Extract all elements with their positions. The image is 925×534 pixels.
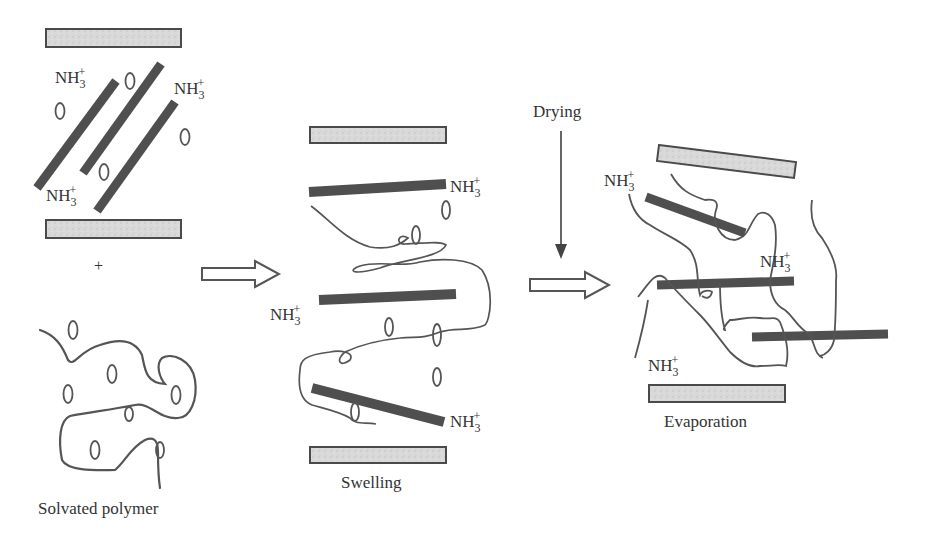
clay-layer — [657, 145, 796, 178]
label-base: NH — [760, 252, 785, 271]
solvent-molecule — [172, 386, 181, 404]
ammonium-label: NH3+ — [760, 253, 797, 270]
plus-sign: + — [94, 258, 103, 274]
process-arrow-1 — [202, 261, 279, 287]
solvent-molecule — [351, 403, 359, 421]
solvent-molecule — [412, 226, 420, 244]
solvent-molecule — [64, 385, 73, 403]
polymer-chain — [40, 330, 196, 488]
solvent-molecule — [91, 441, 100, 459]
clay-layer — [46, 29, 181, 47]
ammonium-label: NH3+ — [46, 187, 83, 204]
label-base: NH — [450, 412, 475, 431]
label-base: NH — [648, 356, 673, 375]
label-subscript: 3 — [475, 421, 481, 435]
surfactant-bar — [97, 102, 175, 211]
ammonium-label: NH3+ — [648, 357, 685, 374]
surfactant-bar — [312, 388, 444, 422]
label-superscript: + — [294, 302, 301, 316]
drying-label: Drying — [533, 103, 581, 120]
polymer-chain — [635, 300, 648, 358]
surfactant-bar — [83, 64, 161, 173]
surfactant-bar — [752, 334, 888, 337]
label-subscript: 3 — [80, 77, 86, 91]
caption-solvated-polymer: Solvated polymer — [38, 500, 158, 517]
solvent-molecule — [385, 318, 393, 336]
stage-1-solvated-polymer — [40, 321, 196, 488]
label-base: NH — [174, 79, 199, 98]
solvent-molecule — [442, 201, 450, 219]
label-superscript: + — [70, 183, 77, 197]
ammonium-label: NH3+ — [270, 306, 307, 323]
label-superscript: + — [79, 65, 86, 79]
label-subscript: 3 — [295, 314, 301, 328]
ammonium-label: NH3+ — [450, 178, 487, 195]
diagram-canvas: NH3+ NH3+ NH3+ + Solvated polymer NH3+ N… — [0, 0, 925, 534]
label-superscript: + — [474, 174, 481, 188]
surfactant-bar — [646, 197, 745, 233]
solvent-molecule — [69, 321, 78, 339]
label-subscript: 3 — [673, 365, 679, 379]
label-base: NH — [604, 171, 629, 190]
clay-layer — [310, 127, 446, 143]
surfactant-bar — [319, 294, 456, 300]
label-base: NH — [55, 68, 80, 87]
ammonium-label: NH3+ — [174, 80, 211, 97]
label-superscript: + — [628, 168, 635, 182]
clay-layer — [649, 385, 785, 402]
label-subscript: 3 — [785, 261, 791, 275]
label-subscript: 3 — [475, 186, 481, 200]
solvent-molecule — [433, 368, 441, 386]
solvent-molecule — [126, 73, 135, 89]
solvent-molecule — [100, 164, 109, 180]
label-base: NH — [450, 177, 475, 196]
ammonium-label: NH3+ — [604, 172, 641, 189]
clay-layer — [310, 447, 446, 463]
label-base: NH — [46, 186, 71, 205]
clay-layer — [46, 220, 181, 238]
label-superscript: + — [198, 76, 205, 90]
caption-swelling: Swelling — [341, 474, 401, 491]
label-superscript: + — [784, 249, 791, 263]
label-superscript: + — [672, 353, 679, 367]
surfactant-bar — [657, 281, 794, 285]
caption-evaporation: Evaporation — [664, 413, 747, 430]
label-subscript: 3 — [71, 195, 77, 209]
solvent-molecule — [181, 129, 190, 145]
label-subscript: 3 — [199, 88, 205, 102]
solvent-molecule — [56, 103, 65, 119]
process-arrow-2 — [530, 272, 609, 298]
label-subscript: 3 — [629, 180, 635, 194]
label-superscript: + — [474, 409, 481, 423]
stage-1-clay-stack — [37, 29, 190, 238]
solvent-molecule — [108, 365, 117, 383]
surfactant-bar — [37, 81, 116, 188]
ammonium-label: NH3+ — [55, 69, 92, 86]
drying-arrow-head — [555, 244, 567, 259]
surfactant-bar — [309, 184, 446, 192]
label-base: NH — [270, 305, 295, 324]
polymer-chain — [671, 174, 823, 358]
ammonium-label: NH3+ — [450, 413, 487, 430]
solvent-molecule — [125, 407, 133, 421]
